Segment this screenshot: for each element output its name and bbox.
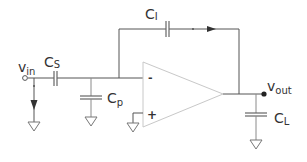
cl-label: CL [274, 110, 290, 127]
capacitor-ci [166, 21, 169, 37]
ground-icon [85, 117, 97, 126]
vout-label: vout [267, 78, 292, 96]
ground-icon [127, 123, 139, 132]
capacitor-cs [54, 71, 57, 86]
noninverting-input-sign: + [147, 108, 157, 122]
cp-label: Cp [107, 90, 123, 108]
current-arrow-icon [31, 100, 38, 110]
ground-icon [250, 140, 262, 149]
capacitor-cp [80, 78, 102, 117]
vin-label: vin [18, 59, 35, 77]
feedback-arrow-icon [207, 26, 216, 32]
capacitor-cl [245, 94, 267, 140]
inverting-input-sign: - [148, 71, 153, 84]
noninverting-ground-wire [133, 113, 143, 123]
cs-label: CS [44, 54, 60, 70]
ci-label: CI [145, 6, 158, 22]
input-source-branch [31, 78, 38, 122]
circuit-diagram: vin CS Cp CI - + [0, 0, 307, 162]
vout-node-icon [261, 91, 266, 96]
ground-icon [28, 122, 40, 131]
